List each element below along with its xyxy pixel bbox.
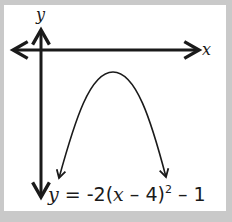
y-axis-label: y bbox=[35, 5, 46, 24]
parabola-diagram: y x y = -2(x – 4)2 – 1 bbox=[0, 0, 232, 222]
parabola-curve bbox=[59, 72, 166, 178]
x-axis-label: x bbox=[202, 40, 211, 59]
equation: y = -2(x – 4)2 – 1 bbox=[47, 183, 206, 205]
